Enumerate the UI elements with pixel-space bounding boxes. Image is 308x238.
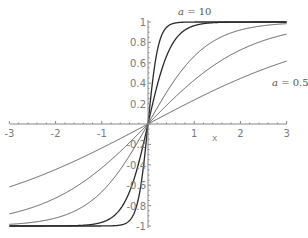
y-tick-label: -0.4 <box>126 160 146 171</box>
y-tick-label: 0.2 <box>130 99 146 110</box>
x-axis-title: x <box>212 133 218 143</box>
y-tick-label: 1 <box>140 17 146 28</box>
x-tick-label: -1 <box>97 128 107 139</box>
y-tick-label: -0.2 <box>126 139 146 150</box>
y-tick-label: 0.8 <box>130 37 146 48</box>
x-tick-label: -3 <box>4 128 14 139</box>
x-tick-label: 1 <box>191 128 197 139</box>
axes-group: -3-2-1123 10.80.60.40.2-0.2-0.4-0.6-0.8-… <box>4 17 289 232</box>
y-tick-label: -0.6 <box>126 180 146 191</box>
y-tick-label: 0.4 <box>130 78 146 89</box>
x-tick-label: 3 <box>283 128 289 139</box>
annotation-a-10: a = 10 <box>178 6 211 17</box>
y-tick-label: -1 <box>136 221 146 232</box>
chart-plot: -3-2-1123 10.80.60.40.2-0.2-0.4-0.6-0.8-… <box>0 0 308 238</box>
y-tick-label: 0.6 <box>130 58 146 69</box>
x-tick-label: 2 <box>237 128 243 139</box>
y-tick-label: -0.8 <box>126 201 146 212</box>
x-tick-label: -2 <box>51 128 61 139</box>
annotation-a-0-5: a = 0.5 <box>272 77 308 88</box>
